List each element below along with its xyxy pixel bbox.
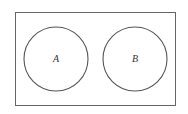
set-a-label: A [52,53,60,64]
venn-diagram: A B [0,0,188,114]
set-b-label: B [132,53,138,64]
universal-set-rectangle [16,13,176,106]
